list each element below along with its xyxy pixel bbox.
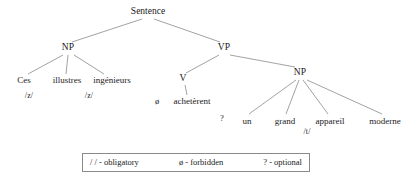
branch-np-illustres: [66, 55, 68, 74]
node-sentence: Sentence: [131, 7, 165, 17]
liaison-mark-grand: /t/: [304, 128, 311, 136]
branch-np-moderne: [307, 80, 382, 114]
node-v: V: [179, 74, 186, 84]
node-np-subject: NP: [62, 43, 75, 53]
optional-mark-np-object: ?: [220, 114, 224, 123]
branch-sentence-vp: [154, 19, 220, 42]
leaf-illustres: illustres: [53, 76, 82, 85]
leaf-grand: grand: [275, 117, 296, 126]
branch-np-un: [249, 80, 296, 114]
syntax-tree-diagram: Sentence NP VP V NP Ces illustres ingéni…: [0, 0, 420, 183]
branch-v-achetrent: [185, 85, 187, 95]
legend-entry-obligatory: / / - obligatory: [90, 158, 139, 167]
leaf-ces: Ces: [17, 76, 31, 85]
leaf-moderne: moderne: [369, 117, 401, 126]
leaf-appareil: appareil: [316, 117, 345, 126]
branch-np-ingenieurs: [74, 55, 104, 74]
node-vp: VP: [218, 43, 231, 53]
branch-np-grand: [286, 80, 299, 114]
leaf-ingenieurs: ingénieurs: [93, 76, 131, 85]
liaison-mark-ces: /z/: [25, 92, 33, 100]
node-np-object: NP: [294, 68, 307, 78]
branch-np-appareil: [303, 80, 328, 114]
legend-entry-forbidden: ø - forbidden: [179, 158, 223, 167]
leaf-acheterent: achetèrent: [174, 97, 211, 106]
liaison-mark-illustres: /z/: [85, 92, 93, 100]
branch-sentence-np: [72, 19, 142, 42]
leaf-un: un: [243, 117, 252, 126]
branch-vp-np: [230, 55, 295, 67]
legend-entry-optional: ? - optional: [263, 158, 302, 167]
forbidden-mark-acheterent: ø: [155, 97, 159, 106]
legend: / / - obligatory ø - forbidden ? - optio…: [82, 153, 310, 172]
branch-vp-v: [186, 55, 219, 73]
branch-np-ces: [28, 55, 63, 74]
